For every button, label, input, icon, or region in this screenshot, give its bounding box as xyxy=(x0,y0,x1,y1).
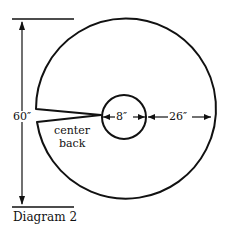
arrow-left-icon xyxy=(148,114,155,120)
tree-skirt-diagram xyxy=(0,0,225,226)
diagram-caption: Diagram 2 xyxy=(13,211,77,223)
arrow-down-icon xyxy=(19,196,25,205)
center-back-label-line2: back xyxy=(59,138,85,149)
arrow-right-icon xyxy=(204,114,211,120)
center-back-label-line1: center xyxy=(54,125,90,136)
height-label: 60″ xyxy=(13,111,31,122)
center-opening-label: 8″ xyxy=(116,111,127,122)
radius-width-label: 26″ xyxy=(169,111,187,122)
arrow-up-icon xyxy=(19,21,25,30)
